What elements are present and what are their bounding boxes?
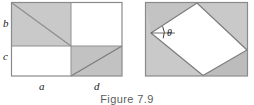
right-diagram: θ — [146, 3, 248, 77]
label-c: c — [3, 50, 8, 62]
figure-graphic: b c a d θ — [0, 0, 254, 105]
label-d: d — [94, 80, 100, 92]
quadrant-bottom-left-white — [12, 46, 72, 76]
quadrant-top-right-white — [71, 3, 122, 47]
label-b: b — [3, 17, 9, 29]
left-diagram: b c a d — [3, 3, 122, 93]
label-theta: θ — [167, 27, 172, 38]
figure-container: b c a d θ Figure 7.9 — [0, 0, 254, 105]
label-a: a — [39, 80, 45, 92]
figure-caption: Figure 7.9 — [0, 93, 254, 105]
